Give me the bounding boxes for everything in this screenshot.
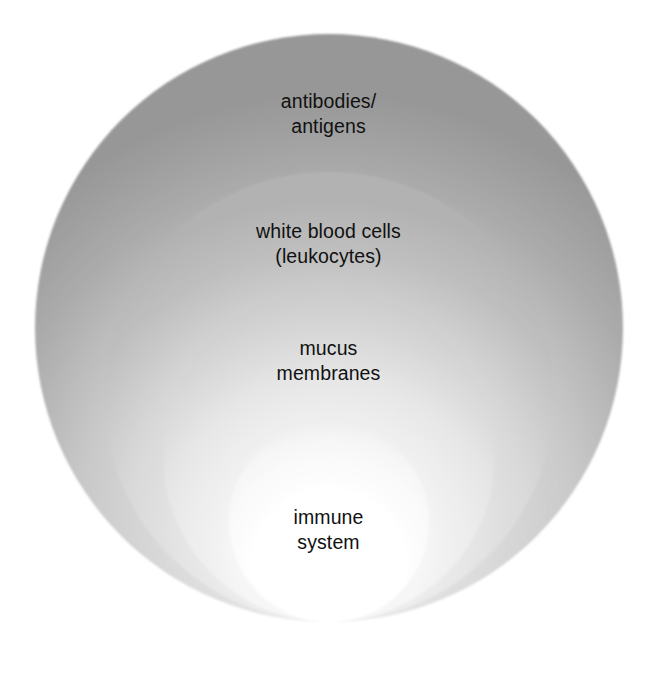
circles-graphic bbox=[0, 0, 657, 690]
concentric-circles-diagram: antibodies/ antigens white blood cells (… bbox=[0, 0, 657, 690]
circle-immune-system bbox=[229, 422, 429, 622]
